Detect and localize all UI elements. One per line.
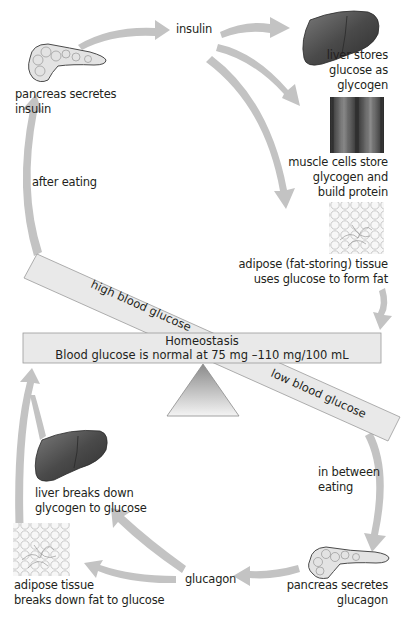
after-eating-label: after eating	[32, 175, 97, 190]
muscle-fiber-icon	[330, 97, 384, 153]
arrow-glucagon-to-liver	[111, 508, 186, 573]
pancreas-icon	[309, 547, 389, 579]
arrow-to-adipose	[206, 56, 295, 209]
glucose-homeostasis-diagram: high blood glucose low blood glucose	[0, 0, 412, 619]
adipose-tissue-icon	[329, 202, 384, 254]
in-between-eating-label: in betweeneating	[318, 465, 380, 495]
homeostasis-text: Homeostasis Blood glucose is normal at 7…	[23, 333, 381, 363]
pancreas-secretes-insulin-label: pancreas secretesinsulin	[15, 87, 116, 117]
glucagon-label: glucagon	[185, 572, 236, 587]
insulin-label: insulin	[176, 22, 212, 37]
adipose-form-fat-label: adipose (fat-storing) tissueuses glucose…	[239, 257, 388, 287]
homeostasis-description: Blood glucose is normal at 75 mg –110 mg…	[23, 348, 381, 362]
pancreas-icon	[29, 44, 106, 82]
homeostasis-title: Homeostasis	[23, 334, 381, 348]
pancreas-secretes-glucagon-label: pancreas secretesglucagon	[287, 578, 388, 608]
arrow-to-liver	[220, 17, 290, 38]
arrow-to-homeostasis-right	[373, 288, 392, 330]
muscle-cells-label: muscle cells storeglycogen andbuild prot…	[288, 155, 388, 200]
triangle-fulcrum-icon	[167, 364, 239, 416]
liver-breaks-down-label: liver breaks downglycogen to glucose	[35, 486, 147, 516]
arrow-branch-left	[30, 395, 46, 440]
adipose-tissue-icon	[13, 523, 70, 576]
arrow-to-insulin	[78, 20, 170, 50]
adipose-breaks-down-label: adipose tissuebreaks down fat to glucose	[14, 578, 164, 608]
liver-icon	[35, 430, 107, 481]
liver-stores-label: liver storesglucose asglycogen	[327, 48, 388, 93]
